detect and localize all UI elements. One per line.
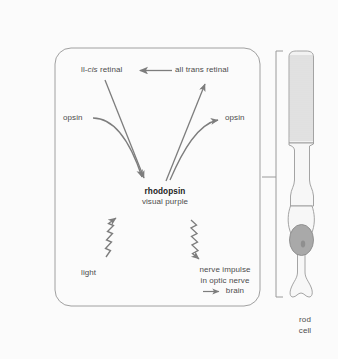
rod-inner-segment (289, 143, 314, 206)
label-visual-purple: visual purple (142, 197, 188, 208)
arrow-rhodopsin-to-all-trans (166, 84, 205, 181)
rod-outer-segment (289, 51, 314, 143)
label-nerve-impulse: nerve impulse in optic nerve brain (199, 265, 250, 297)
arrow-11-cis-to-rhodopsin (105, 80, 144, 178)
label-rhodopsin: rhodopsin (145, 187, 186, 198)
rod-cell-line-2: cell (299, 326, 311, 337)
arrow-light-wavy (106, 218, 117, 257)
figure-root: ll-cis retinal all trans retinal opsin o… (0, 0, 338, 359)
label-rod-cell: rod cell (299, 315, 311, 336)
label-opsin-left: opsin (63, 113, 83, 124)
label-11-cis-retinal: ll-cis retinal (81, 65, 122, 76)
label-all-trans-retinal: all trans retinal (175, 65, 229, 76)
nerve-impulse-line-3: brain (199, 286, 250, 297)
arrow-opsin-left-to-rhodopsin (93, 118, 142, 177)
label-light: light (81, 268, 96, 279)
nerve-impulse-line-1: nerve impulse (199, 265, 250, 276)
diagram-vector-layer (0, 0, 338, 359)
rod-cell-bracket (262, 51, 283, 297)
rod-cell-line-1: rod (299, 315, 311, 326)
arrow-nerve-impulse-wavy (191, 220, 199, 259)
rod-nucleolus (301, 241, 305, 248)
arrow-rhodopsin-to-opsin-right (170, 120, 218, 180)
nerve-impulse-line-2: in optic nerve (199, 276, 250, 287)
label-opsin-right: opsin (225, 113, 245, 124)
rod-nucleus (290, 225, 314, 256)
rod-cell-illustration (288, 51, 314, 297)
